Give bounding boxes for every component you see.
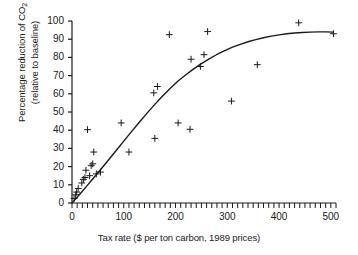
x-axis-title: Tax rate ($ per ton carbon, 1989 prices) [0, 232, 358, 243]
data-point [154, 83, 161, 90]
x-axis-tick-label: 300 [210, 212, 244, 222]
y-axis-tick-label: 80 [38, 52, 64, 62]
data-point [150, 89, 157, 96]
data-point [166, 31, 173, 38]
data-point [254, 61, 261, 68]
data-point [204, 28, 211, 35]
chart-figure: Percentage reduction of CO2 (relative to… [0, 0, 358, 255]
data-point [201, 51, 208, 58]
data-point [97, 169, 104, 176]
data-point [78, 180, 85, 187]
y-axis-tick-label: 40 [38, 125, 64, 135]
y-axis-tick-label: 100 [38, 16, 64, 26]
fit-curve-path [72, 32, 333, 203]
data-point [151, 135, 158, 142]
data-point [86, 172, 93, 179]
data-point [88, 162, 95, 169]
data-point [83, 167, 90, 174]
fit-curve [72, 32, 333, 203]
plot-svg [72, 21, 336, 203]
data-point [197, 63, 204, 70]
x-axis-tick-label: 200 [159, 212, 193, 222]
y-axis-title-text: Percentage reduction of CO [16, 7, 27, 122]
axes [68, 21, 336, 208]
data-point [175, 120, 182, 127]
y-axis-tick-label: 50 [38, 107, 64, 117]
data-point [90, 149, 97, 156]
y-axis-title-subscript: 2 [21, 3, 28, 7]
x-axis-tick-label: 400 [262, 212, 296, 222]
y-axis-tick-label: 30 [38, 143, 64, 153]
data-point [188, 56, 195, 63]
data-point [84, 126, 91, 133]
y-axis-tick-label: 70 [38, 71, 64, 81]
plot-area [72, 21, 336, 203]
data-point [89, 160, 96, 167]
y-axis-tick-label: 10 [38, 180, 64, 190]
data-point [118, 120, 125, 127]
data-point [80, 176, 87, 183]
y-axis-tick-label: 20 [38, 162, 64, 172]
data-point [295, 19, 302, 26]
data-point [75, 185, 82, 192]
y-axis-title: Percentage reduction of CO2 (relative to… [16, 0, 41, 163]
data-point [228, 98, 235, 105]
x-axis-tick-label: 100 [107, 212, 141, 222]
y-axis-title-line1: Percentage reduction of CO2 [16, 0, 29, 163]
data-point [126, 149, 133, 156]
y-axis-tick-label: 90 [38, 34, 64, 44]
data-point [82, 174, 89, 181]
data-point [187, 126, 194, 133]
x-axis-tick-label: 0 [55, 212, 89, 222]
x-axis-tick-label: 500 [314, 212, 348, 222]
y-axis-tick-label: 0 [38, 198, 64, 208]
y-axis-tick-label: 60 [38, 89, 64, 99]
data-points [71, 19, 337, 201]
